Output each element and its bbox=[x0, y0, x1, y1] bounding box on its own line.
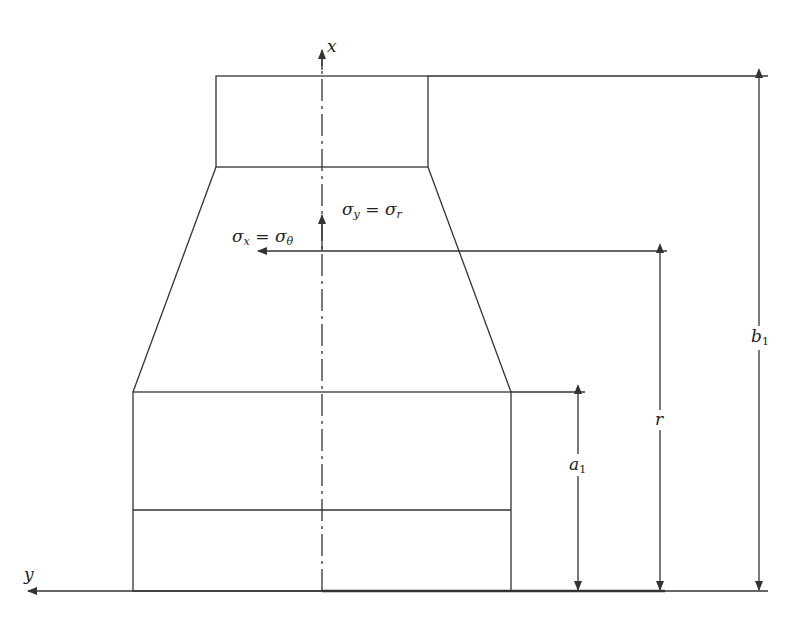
equals-sign: = bbox=[255, 226, 269, 246]
sigma-symbol: σ bbox=[275, 226, 287, 246]
equals-sign: = bbox=[365, 199, 379, 219]
sigma-symbol: σ bbox=[232, 226, 244, 246]
sigma-y-equals-sigma-r-label: σy = σr bbox=[342, 201, 402, 220]
a1-label: a1 bbox=[569, 456, 586, 475]
b1-label: b1 bbox=[751, 328, 769, 347]
subscript-1: 1 bbox=[762, 335, 769, 348]
x-axis-label: x bbox=[327, 38, 337, 55]
sigma-x-equals-sigma-theta-label: σx = σθ bbox=[232, 228, 293, 247]
b-symbol: b bbox=[751, 326, 762, 346]
taper-right-edge bbox=[428, 167, 511, 392]
subscript-theta: θ bbox=[287, 235, 294, 248]
subscript-r: r bbox=[397, 208, 402, 221]
y-axis-label: y bbox=[24, 566, 34, 583]
diagram-canvas: x y σy = σr σx = σθ a1 r b1 bbox=[0, 0, 798, 629]
a-symbol: a bbox=[569, 454, 579, 474]
diagram-svg bbox=[0, 0, 798, 629]
sigma-symbol: σ bbox=[342, 199, 354, 219]
r-label: r bbox=[655, 411, 663, 428]
sigma-symbol: σ bbox=[385, 199, 397, 219]
taper-left-edge bbox=[133, 167, 216, 392]
subscript-1: 1 bbox=[579, 463, 586, 476]
subscript-y: y bbox=[354, 208, 360, 221]
subscript-x: x bbox=[244, 235, 250, 248]
